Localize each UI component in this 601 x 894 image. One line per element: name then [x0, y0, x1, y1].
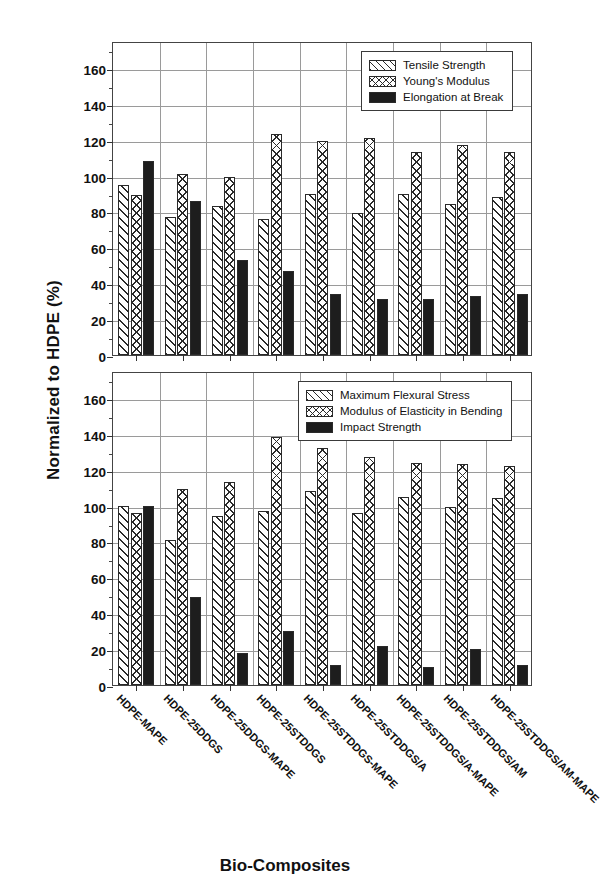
y-axis-tick — [107, 543, 113, 544]
x-axis-tick — [136, 685, 137, 691]
bar — [283, 631, 294, 685]
y-axis-minor-tick — [109, 418, 113, 419]
y-axis-tick — [107, 400, 113, 401]
bar — [237, 260, 248, 355]
y-axis-tick — [107, 285, 113, 286]
y-axis-minor-tick — [109, 669, 113, 670]
y-axis-minor-tick — [109, 303, 113, 304]
x-axis-tick — [183, 685, 184, 691]
y-axis-minor-tick — [109, 196, 113, 197]
x-axis-tick — [136, 355, 137, 361]
y-axis-tick-label: 120 — [83, 464, 106, 479]
y-axis-tick-label: 80 — [91, 536, 106, 551]
bar — [224, 482, 235, 685]
bar — [457, 464, 468, 685]
bar — [190, 597, 201, 685]
legend-label: Tensile Strength — [403, 59, 485, 71]
bar — [445, 507, 456, 685]
legend-swatch-icon — [369, 60, 396, 71]
legend-top: Tensile StrengthYoung's ModulusElongatio… — [361, 51, 513, 111]
y-axis-tick — [107, 142, 113, 143]
y-axis-tick-label: 60 — [91, 242, 106, 257]
legend-label: Elongation at Break — [403, 91, 503, 103]
bar-group — [113, 43, 160, 355]
bar — [411, 152, 422, 355]
bar — [492, 498, 503, 685]
bar-group — [253, 373, 300, 685]
bar — [317, 448, 328, 685]
y-axis-tick — [107, 472, 113, 473]
bar — [377, 646, 388, 685]
legend-label: Young's Modulus — [403, 75, 490, 87]
bar — [504, 466, 515, 685]
y-axis-minor-tick — [109, 231, 113, 232]
x-axis-category-label: HDPE-25STDDGS-MAPE — [302, 692, 401, 791]
legend-item: Tensile Strength — [369, 57, 503, 73]
y-axis-minor-tick — [109, 160, 113, 161]
bar — [237, 653, 248, 685]
bar — [258, 219, 269, 355]
y-axis-minor-tick — [109, 124, 113, 125]
x-axis-tick — [463, 355, 464, 361]
bar — [283, 271, 294, 355]
bar — [165, 540, 176, 685]
y-axis-tick-label: 120 — [83, 134, 106, 149]
legend-swatch-icon — [306, 406, 333, 417]
x-axis-tick — [463, 685, 464, 691]
bar — [271, 134, 282, 355]
legend-swatch-icon — [369, 92, 396, 103]
chart-panel-bottom: Maximum Flexural StressModulus of Elasti… — [112, 372, 532, 686]
y-axis-tick-label: 80 — [91, 206, 106, 221]
y-axis-tick-label: 0 — [98, 350, 106, 365]
bar — [143, 161, 154, 355]
legend-swatch-icon — [306, 422, 333, 433]
x-axis-category-label: HDPE-25DDGS-MAPE — [208, 692, 297, 781]
y-axis-tick — [107, 178, 113, 179]
y-axis-tick — [107, 615, 113, 616]
legend-item: Impact Strength — [306, 419, 502, 435]
x-axis-title: Bio-Composites — [0, 856, 570, 876]
y-axis-tick-label: 40 — [91, 608, 106, 623]
y-axis-minor-tick — [109, 454, 113, 455]
y-axis-tick-label: 0 — [98, 680, 106, 695]
bar — [398, 497, 409, 685]
y-axis-tick-label: 140 — [83, 428, 106, 443]
bar — [258, 511, 269, 685]
bar — [143, 506, 154, 685]
y-axis-tick — [107, 357, 113, 358]
x-axis-tick — [370, 355, 371, 361]
y-axis-tick-label: 160 — [83, 392, 106, 407]
bar — [305, 194, 316, 355]
bar-group — [253, 43, 300, 355]
chart-panel-top: Tensile StrengthYoung's ModulusElongatio… — [112, 42, 532, 356]
x-axis-tick — [183, 355, 184, 361]
x-axis-tick — [276, 685, 277, 691]
y-axis-tick — [107, 70, 113, 71]
y-axis-tick — [107, 213, 113, 214]
bar-group — [300, 43, 347, 355]
y-axis-tick-label: 60 — [91, 572, 106, 587]
bar — [470, 296, 481, 355]
bar-group — [206, 43, 253, 355]
bar — [224, 177, 235, 355]
y-axis-minor-tick — [109, 526, 113, 527]
y-axis-tick-label: 100 — [83, 170, 106, 185]
legend-item: Modulus of Elasticity in Bending — [306, 403, 502, 419]
y-axis-minor-tick — [109, 597, 113, 598]
bar — [131, 195, 142, 355]
legend-item: Maximum Flexural Stress — [306, 387, 502, 403]
legend-label: Maximum Flexural Stress — [340, 389, 470, 401]
bar-group — [206, 373, 253, 685]
x-axis-tick — [510, 685, 511, 691]
legend-bottom: Maximum Flexural StressModulus of Elasti… — [298, 381, 512, 441]
bar-group — [113, 373, 160, 685]
bar — [470, 649, 481, 685]
y-axis-tick — [107, 651, 113, 652]
bar — [177, 174, 188, 355]
x-axis-tick — [416, 355, 417, 361]
bar — [445, 204, 456, 355]
bar-group — [160, 43, 207, 355]
legend-swatch-icon — [306, 390, 333, 401]
y-axis-tick — [107, 321, 113, 322]
x-axis-tick — [276, 355, 277, 361]
